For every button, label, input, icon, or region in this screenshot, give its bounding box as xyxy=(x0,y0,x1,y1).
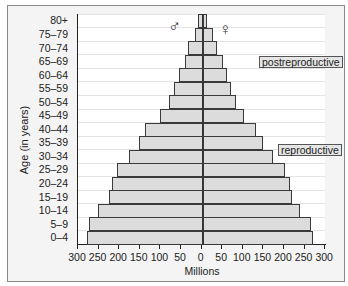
y-axis-line xyxy=(77,14,78,245)
x-tick-label: 300 xyxy=(309,251,339,263)
x-axis-title: Millions xyxy=(184,265,219,277)
male-bar-30–34 xyxy=(129,150,203,164)
male-bar-15–19 xyxy=(109,190,203,204)
female-bar-0–4 xyxy=(203,231,314,245)
female-bar-30–34 xyxy=(203,150,274,164)
x-tick xyxy=(118,245,119,249)
postreproductive-label: postreproductive xyxy=(259,56,343,68)
x-tick xyxy=(180,245,181,249)
x-tick xyxy=(201,245,202,249)
female-bar-60–64 xyxy=(203,68,228,82)
female-bar-5–9 xyxy=(203,217,312,231)
male-bar-20–24 xyxy=(112,177,204,191)
male-bar-45–49 xyxy=(160,109,203,123)
female-bar-75–79 xyxy=(203,28,213,42)
male-bar-5–9 xyxy=(89,217,203,231)
female-bar-25–29 xyxy=(203,163,286,177)
male-symbol-icon: ♂ xyxy=(168,18,181,35)
male-bar-25–29 xyxy=(117,163,204,177)
male-bar-40–44 xyxy=(145,123,204,137)
y-tick-label: 55–59 xyxy=(20,82,68,94)
x-tick xyxy=(77,245,78,249)
x-tick xyxy=(283,245,284,249)
female-bar-20–24 xyxy=(203,177,291,191)
female-bar-40–44 xyxy=(203,123,256,137)
x-tick xyxy=(242,245,243,249)
female-bar-35–39 xyxy=(203,136,263,150)
male-bar-55–59 xyxy=(174,82,204,96)
y-tick-label: 5–9 xyxy=(20,218,68,230)
y-tick-label: 60–64 xyxy=(20,69,68,81)
x-tick xyxy=(98,245,99,249)
male-bar-50–54 xyxy=(169,95,203,109)
y-tick-label: 75–79 xyxy=(20,28,68,40)
female-bar-55–59 xyxy=(203,82,232,96)
x-tick xyxy=(262,245,263,249)
y-tick-label: 80+ xyxy=(20,14,68,26)
male-bar-35–39 xyxy=(139,136,203,150)
y-tick-label: 10–14 xyxy=(20,204,68,216)
x-tick xyxy=(221,245,222,249)
female-bar-10–14 xyxy=(203,204,300,218)
x-tick xyxy=(159,245,160,249)
reproductive-label: reproductive xyxy=(278,144,342,156)
female-bar-70–74 xyxy=(203,41,217,55)
zero-axis-line xyxy=(202,14,203,244)
female-bar-65–69 xyxy=(203,55,224,69)
y-axis-title: Age (in years) xyxy=(18,106,30,174)
female-bar-15–19 xyxy=(203,190,292,204)
y-tick-label: 20–24 xyxy=(20,177,68,189)
female-bar-45–49 xyxy=(203,109,245,123)
x-tick xyxy=(304,245,305,249)
x-tick xyxy=(139,245,140,249)
y-tick-label: 15–19 xyxy=(20,191,68,203)
male-bar-60–64 xyxy=(179,68,203,82)
female-bar-50–54 xyxy=(203,95,237,109)
male-bar-10–14 xyxy=(98,204,204,218)
y-tick-label: 65–69 xyxy=(20,55,68,67)
x-tick xyxy=(324,245,325,249)
male-bar-0–4 xyxy=(87,231,204,245)
male-bar-65–69 xyxy=(185,55,203,69)
female-symbol-icon: ♀ xyxy=(219,21,232,38)
female-bar-80+ xyxy=(203,14,208,28)
y-tick-label: 70–74 xyxy=(20,42,68,54)
y-tick-label: 0–4 xyxy=(20,231,68,243)
